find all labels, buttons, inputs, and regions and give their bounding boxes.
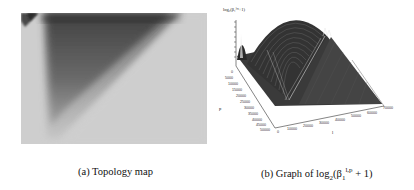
svg-text:50000: 50000 bbox=[260, 128, 270, 132]
topology-map-image bbox=[21, 13, 207, 144]
svg-text:30000: 30000 bbox=[244, 106, 254, 110]
svg-text:0: 0 bbox=[277, 130, 279, 134]
svg-text:20000: 20000 bbox=[236, 94, 246, 98]
svg-text:25000: 25000 bbox=[240, 100, 250, 104]
svg-text:20000: 20000 bbox=[303, 124, 313, 128]
l-axis bbox=[275, 106, 384, 128]
svg-text:40000: 40000 bbox=[335, 118, 345, 122]
surface-plot: log₂(β₁ˡ'ᵖ+1) bbox=[207, 0, 414, 150]
caption-a: (a) Topology map bbox=[78, 166, 153, 177]
svg-text:45000: 45000 bbox=[256, 123, 266, 127]
l-axis-ticks: 0 10000 20000 30000 40000 50000 60000 70… bbox=[277, 106, 393, 134]
svg-text:60000: 60000 bbox=[367, 111, 377, 115]
svg-text:10000: 10000 bbox=[228, 82, 238, 86]
caption-b: (b) Graph of log2(β1l,p + 1) bbox=[261, 166, 373, 182]
svg-text:15000: 15000 bbox=[232, 88, 242, 92]
svg-text:40000: 40000 bbox=[252, 118, 262, 122]
topology-map bbox=[21, 13, 207, 144]
svg-text:10000: 10000 bbox=[287, 127, 297, 131]
svg-text:30000: 30000 bbox=[319, 121, 329, 125]
p-axis-label: p bbox=[219, 106, 222, 111]
surface-plot-svg: log₂(β₁ˡ'ᵖ+1) bbox=[207, 0, 414, 150]
svg-text:5000: 5000 bbox=[225, 76, 233, 80]
svg-text:0: 0 bbox=[231, 70, 233, 74]
z-axis-label: log₂(β₁ˡ'ᵖ+1) bbox=[223, 7, 245, 12]
svg-text:50000: 50000 bbox=[351, 114, 361, 118]
svg-text:70000: 70000 bbox=[383, 106, 393, 110]
l-axis-label: l bbox=[332, 130, 334, 135]
svg-text:35000: 35000 bbox=[248, 112, 258, 116]
